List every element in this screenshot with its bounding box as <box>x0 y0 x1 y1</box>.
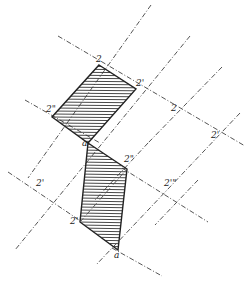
hatch-line <box>50 138 138 139</box>
hatch-line <box>78 150 129 151</box>
hatch-line <box>50 141 138 142</box>
vertex-label: 2' <box>35 178 44 188</box>
hatch-line <box>50 96 138 97</box>
vertex-label: a <box>114 250 119 260</box>
construction-line <box>28 5 151 178</box>
hatch-line <box>78 234 129 235</box>
vertex-label: 2' <box>69 216 78 226</box>
construction-line <box>112 248 162 276</box>
hatch-line <box>78 207 129 208</box>
construction-line <box>8 172 82 222</box>
hatch-line <box>78 156 129 157</box>
hatch-line <box>50 111 138 112</box>
hatch-line <box>78 177 129 178</box>
vertex-label: 2'" <box>163 178 176 188</box>
hatch-line <box>78 195 129 196</box>
vertex-label: 2" <box>45 104 56 114</box>
hatch-line <box>50 87 138 88</box>
hatch-line <box>78 204 129 205</box>
hatch-line <box>50 72 138 73</box>
vertex-label: 2' <box>210 130 219 140</box>
hatch-line <box>78 231 129 232</box>
hatch-line <box>78 192 129 193</box>
projection-diagram: 22'2"22'a2"2'2'"2'a <box>0 0 248 286</box>
hatch-line <box>50 99 138 100</box>
hatch-line <box>50 108 138 109</box>
vertex-label: 2' <box>135 78 144 88</box>
hatch-line <box>78 198 129 199</box>
hatch-line <box>50 126 138 127</box>
hatch-line <box>50 66 138 67</box>
vertex-label: 2 <box>170 103 177 113</box>
hatch-line <box>78 249 129 250</box>
vertex-label: 2 <box>95 54 102 64</box>
upper-parallelogram <box>52 65 136 143</box>
hatch-line <box>50 93 138 94</box>
hatch-line <box>78 186 129 187</box>
vertex-label: a <box>82 138 87 148</box>
hatch-line <box>50 132 138 133</box>
hatch-line <box>78 180 129 181</box>
construction-line <box>155 180 198 225</box>
construction-line <box>25 100 100 143</box>
hatch-line <box>78 201 129 202</box>
hatch-line <box>78 246 129 247</box>
hatch-line <box>50 84 138 85</box>
hatch-line <box>78 228 129 229</box>
hatch-line <box>78 189 129 190</box>
construction-lines <box>8 5 245 276</box>
hatch-line <box>78 183 129 184</box>
hatch-line <box>50 120 138 121</box>
hatch-line <box>50 123 138 124</box>
hatch-line <box>50 117 138 118</box>
hatch-line <box>50 114 138 115</box>
hatch-line <box>50 78 138 79</box>
vertex-label: 2" <box>123 154 134 164</box>
hatch-line <box>78 243 129 244</box>
hatch-line <box>50 90 138 91</box>
hatch-line <box>78 210 129 211</box>
